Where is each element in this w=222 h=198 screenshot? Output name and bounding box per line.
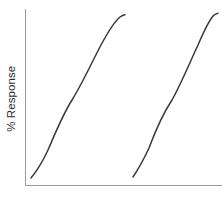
plot-area: [0, 0, 222, 198]
figure-background: [0, 0, 222, 198]
dose-response-figure: % Response: [0, 0, 222, 198]
